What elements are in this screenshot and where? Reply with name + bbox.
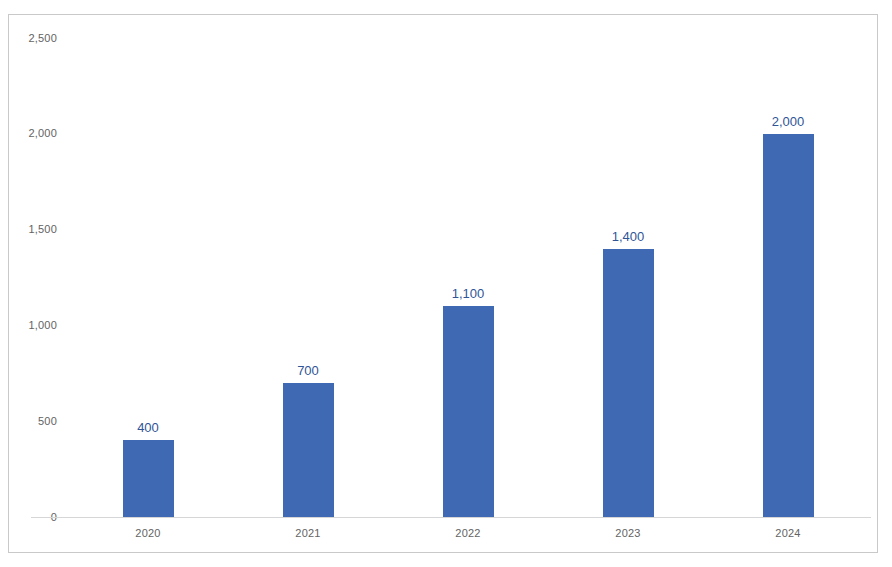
x-axis-tick-2022: 2022 [423, 527, 513, 539]
x-axis-tick-2024: 2024 [743, 527, 833, 539]
y-axis-tick-1500: 1,500 [9, 223, 57, 235]
bar-value-2021: 700 [263, 363, 353, 378]
plot-area: 2,500 2,000 1,500 1,000 500 0 400 2020 7… [9, 15, 877, 552]
chart-frame: 2,500 2,000 1,500 1,000 500 0 400 2020 7… [8, 14, 878, 553]
bar-value-2024: 2,000 [743, 114, 833, 129]
bar-2024[interactable] [763, 134, 814, 517]
bar-2023[interactable] [603, 249, 654, 517]
bar-2022[interactable] [443, 306, 494, 517]
category-axis-line [31, 517, 871, 518]
y-axis-tick-1000: 1,000 [9, 319, 57, 331]
y-axis-tick-2000: 2,000 [9, 127, 57, 139]
y-axis-tick-2500: 2,500 [9, 32, 57, 44]
y-axis-tick-500: 500 [9, 415, 57, 427]
bar-value-2022: 1,100 [423, 286, 513, 301]
x-axis-tick-2020: 2020 [103, 527, 193, 539]
bar-2021[interactable] [283, 383, 334, 517]
bar-value-2020: 400 [103, 420, 193, 435]
x-axis-tick-2021: 2021 [263, 527, 353, 539]
bar-value-2023: 1,400 [583, 229, 673, 244]
x-axis-tick-2023: 2023 [583, 527, 673, 539]
bar-2020[interactable] [123, 440, 174, 517]
